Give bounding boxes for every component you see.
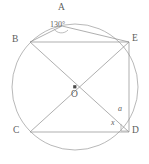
center-point-dot (73, 85, 76, 88)
diagram-canvas (0, 0, 149, 164)
geometry-diagram: A B C D E O 130° a x (0, 0, 149, 164)
angle-arc-at-A (54, 29, 68, 33)
point-label-A: A (58, 3, 65, 13)
segment-AE (62, 26, 129, 42)
point-label-C: C (13, 126, 19, 136)
point-label-D: D (132, 126, 139, 136)
point-label-B: B (12, 35, 18, 45)
angle-label-a: a (118, 105, 122, 113)
angle-label-130: 130° (50, 21, 65, 29)
point-label-E: E (132, 34, 138, 44)
angle-label-x: x (111, 119, 115, 127)
point-label-O: O (71, 90, 78, 100)
